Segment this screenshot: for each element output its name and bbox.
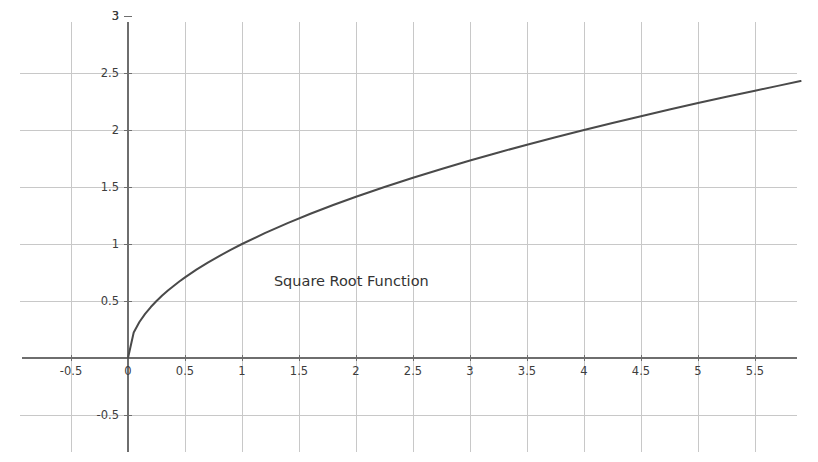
x-tick-label: 3.5	[518, 364, 536, 378]
grid-lines	[20, 22, 797, 452]
x-tick-label: 0	[124, 364, 131, 378]
y-tick-label: 2	[112, 123, 119, 137]
y-tick-label-clipped: 3	[112, 9, 119, 23]
y-tick-label: 1	[112, 237, 119, 251]
plot-canvas: -0.500.511.522.533.544.555.5 -0.50.511.5…	[0, 0, 818, 462]
y-axis-tick-labels: -0.50.511.522.533	[97, 9, 119, 422]
x-tick-label: 1.5	[290, 364, 308, 378]
y-tick-label: 1.5	[101, 180, 119, 194]
x-tick-label: 2	[352, 364, 359, 378]
y-tick-label: -0.5	[97, 408, 119, 422]
x-tick-label: 5.5	[746, 364, 764, 378]
x-tick-label: 4.5	[632, 364, 650, 378]
x-tick-label: 5	[694, 364, 701, 378]
x-tick-label: 2.5	[404, 364, 422, 378]
data-curve	[128, 81, 801, 358]
x-tick-label: -0.5	[60, 364, 82, 378]
x-tick-label: 0.5	[176, 364, 194, 378]
y-tick-label: 2.5	[101, 66, 119, 80]
x-tick-label: 3	[466, 364, 473, 378]
square-root-curve	[128, 81, 801, 358]
x-tick-label: 1	[238, 364, 245, 378]
x-axis-tick-labels: -0.500.511.522.533.544.555.5	[60, 364, 764, 378]
annotation-square-root-function: Square Root Function	[274, 273, 429, 289]
square-root-function-chart: -0.500.511.522.533.544.555.5 -0.50.511.5…	[0, 0, 818, 462]
y-tick-label: 0.5	[101, 294, 119, 308]
x-tick-label: 4	[580, 364, 587, 378]
axis-lines	[22, 16, 797, 452]
curve-annotation-label: Square Root Function	[274, 273, 429, 289]
